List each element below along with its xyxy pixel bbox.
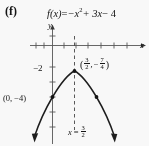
symmetry-variable: x	[68, 127, 72, 137]
vertex-comma: ,	[91, 59, 93, 69]
y-tick-label-negative-2: −2	[33, 63, 43, 73]
vertex-open-paren: (	[80, 59, 83, 70]
curve-right-arrowhead	[111, 133, 117, 142]
symmetry-numerator: 3	[81, 125, 86, 132]
vertex-x-denominator: 2	[84, 63, 89, 71]
vertex-y-fraction: 7 4	[100, 57, 105, 71]
y-intercept-point	[51, 95, 55, 99]
y-axis-label: y	[48, 20, 52, 30]
axis-of-symmetry-label: x = 3 2	[68, 125, 86, 139]
curve-left-arrowhead	[32, 133, 38, 142]
vertex-y-sign: −	[94, 59, 99, 69]
vertex-y-numerator: 7	[100, 57, 105, 64]
vertex-x-fraction: 3 2	[84, 57, 89, 71]
vertex-x-numerator: 3	[84, 57, 89, 64]
vertex-y-denominator: 4	[100, 63, 105, 71]
symmetry-denominator: 2	[81, 131, 86, 139]
symmetry-equals: =	[74, 127, 79, 137]
vertex-point	[73, 69, 77, 73]
symmetric-point	[95, 95, 99, 99]
vertex-coordinate-label: ( 3 2 , − 7 4 )	[80, 57, 109, 71]
x-axis-label: x	[140, 40, 144, 50]
vertex-close-paren: )	[106, 59, 109, 70]
y-intercept-label: (0, −4)	[3, 93, 26, 103]
parabola-figure: (f) f(x)=−x2+ 3x− 4	[0, 0, 149, 146]
symmetry-fraction: 3 2	[81, 125, 86, 139]
